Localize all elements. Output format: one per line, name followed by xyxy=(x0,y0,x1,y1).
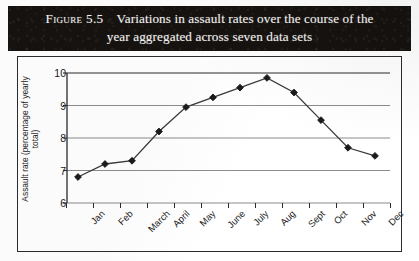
y-axis-tick-labels: 678910 xyxy=(42,0,66,261)
y-axis-tick-label: 8 xyxy=(44,133,66,144)
figure-caption-band: Figure 5.5Variations in assault rates ov… xyxy=(8,6,411,51)
y-axis-tick-label: 7 xyxy=(44,166,66,177)
caption-line-1: Figure 5.5Variations in assault rates ov… xyxy=(8,11,411,27)
caption-text-line-1: Variations in assault rates over the cou… xyxy=(117,11,374,26)
y-axis-tick-label: 9 xyxy=(44,101,66,112)
y-axis-title: Assault rate (percentage of yearly total… xyxy=(22,72,40,206)
y-axis-tick-label: 10 xyxy=(44,68,66,79)
y-axis-tick-label: 6 xyxy=(44,198,66,209)
caption-line-2: year aggregated across seven data sets xyxy=(8,29,411,45)
figure-container: Figure 5.5Variations in assault rates ov… xyxy=(0,0,419,261)
